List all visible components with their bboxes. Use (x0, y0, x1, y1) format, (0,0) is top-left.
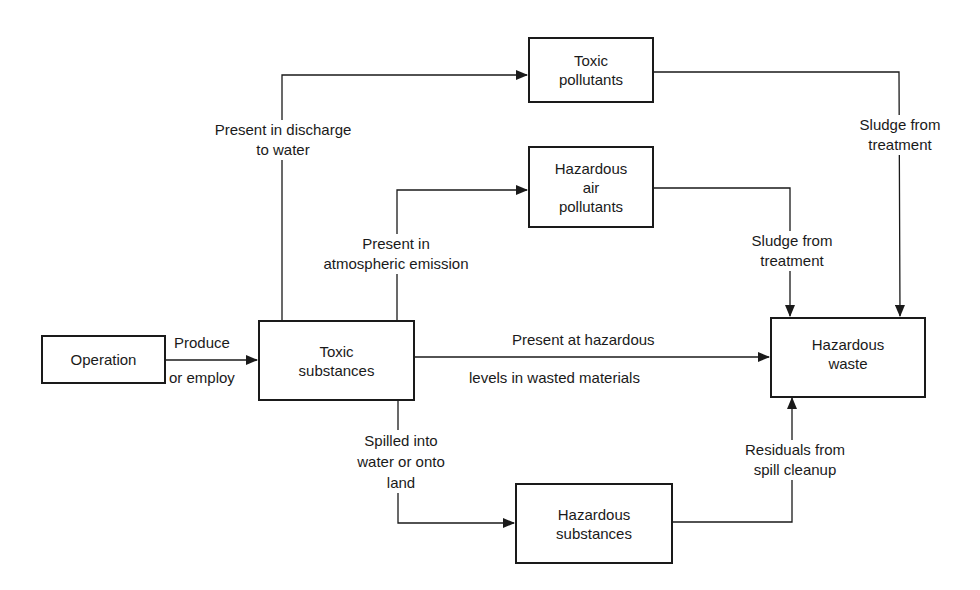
connector-lines (0, 0, 980, 590)
node-hazardous-substances-label: Hazardous substances (556, 505, 632, 543)
node-hazardous-air-pollutants-label: Hazardous air pollutants (555, 159, 628, 216)
node-toxic-pollutants: Toxic pollutants (528, 37, 654, 103)
edge-label-hazardous-levels-top: Present at hazardous (512, 330, 655, 350)
node-hazardous-waste-label: Hazardous waste (812, 335, 885, 373)
node-operation-label: Operation (71, 350, 137, 369)
node-toxic-pollutants-label: Toxic pollutants (559, 51, 623, 89)
node-hazardous-waste: Hazardous waste (770, 317, 926, 398)
node-operation: Operation (41, 335, 166, 384)
node-toxic-substances-label: Toxic substances (299, 342, 375, 380)
node-toxic-substances: Toxic substances (258, 320, 415, 401)
edge-label-atmospheric: Present in atmospheric emission (304, 234, 488, 274)
edge-label-residuals: Residuals from spill cleanup (736, 440, 854, 480)
edge-label-hazardous-levels-bottom: levels in wasted materials (469, 368, 640, 388)
edge-label-or-employ: or employ (169, 368, 235, 388)
edge-label-produce: Produce (174, 333, 230, 353)
edge-label-spilled: Spilled into water or onto land (342, 430, 460, 493)
edge-label-sludge-toxic: Sludge from treatment (848, 115, 952, 155)
node-hazardous-substances: Hazardous substances (515, 483, 673, 564)
node-hazardous-air-pollutants: Hazardous air pollutants (528, 146, 654, 228)
edge-label-discharge-water: Present in discharge to water (212, 120, 354, 160)
edge-label-sludge-air: Sludge from treatment (740, 231, 844, 271)
